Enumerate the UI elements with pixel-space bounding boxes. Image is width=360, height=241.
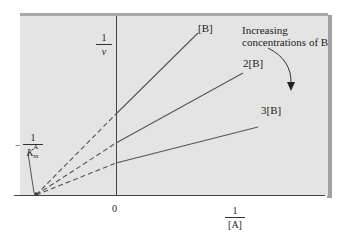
y-axis-label: 1 v [96, 32, 112, 57]
line-2b-label: 2[B] [243, 57, 263, 69]
intercept-k: K [27, 147, 34, 158]
fraction-bar [225, 217, 245, 218]
convergence-point [34, 192, 38, 196]
annotation-line-1: Increasing [242, 24, 288, 36]
x-label-numerator: 1 [225, 205, 245, 216]
x-label-denominator: [A] [225, 219, 245, 230]
fraction-bar [96, 44, 112, 45]
line-3b-label: 3[B] [261, 104, 281, 116]
y-label-denominator: v [96, 46, 112, 57]
intercept-subscript: m [33, 151, 38, 162]
annotation-line-2: concentrations of B [242, 36, 328, 48]
line-b-label: [B] [198, 22, 213, 34]
intercept-sign: − [15, 140, 21, 151]
y-label-numerator: 1 [96, 32, 112, 43]
origin-label: 0 [112, 203, 117, 215]
panel-top-border [20, 13, 328, 16]
x-axis-label: 1 [A] [225, 205, 245, 230]
lineweaver-burk-diagram: 1 v 1 [A] 0 − 1 KAm [B] 2[B] 3[B] Increa… [0, 0, 360, 241]
